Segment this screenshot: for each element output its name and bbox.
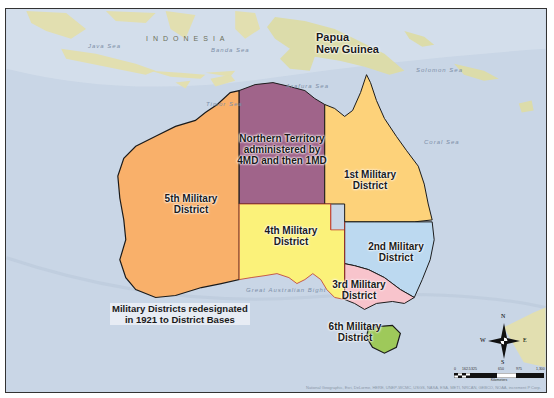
district-1-line2: District	[332, 180, 408, 191]
district-3-line2: District	[324, 290, 394, 301]
indonesia-label: INDONESIA	[146, 35, 230, 42]
district-label-4: 4th Military District	[256, 225, 326, 247]
sea-label-arafura: Arafura Sea	[286, 83, 329, 89]
district-5-line1: 5th Military	[156, 193, 226, 204]
district-label-3: 3rd Military District	[324, 279, 394, 301]
sea-label-timor: Timor Sea	[206, 101, 243, 107]
note-line2: in 1921 to District Bases	[112, 314, 248, 325]
scale-bar: 0 162.5 325 650 975 1,300 Kilometers	[454, 367, 544, 382]
nt-line1: Northern Territory	[234, 133, 330, 144]
sea-label-banda: Banda Sea	[211, 47, 250, 53]
sea-label-solomon: Solomon Sea	[416, 67, 463, 73]
scale-tick-5: 1,300	[536, 367, 545, 371]
sea-label-java: Java Sea	[88, 43, 121, 49]
district-2-line1: 2nd Military	[358, 241, 434, 252]
papua-text: Papua	[316, 31, 379, 43]
district-label-nt: Northern Territory administered by 4MD a…	[234, 133, 330, 166]
district-label-5: 5th Military District	[156, 193, 226, 215]
district-1-line1: 1st Military	[332, 169, 408, 180]
sea-label-bight: Great Australian Bight	[246, 287, 326, 293]
compass-rose-icon: N S W E	[484, 319, 524, 363]
scale-tick-1: 162.5	[462, 367, 471, 371]
district-label-1: 1st Military District	[332, 169, 408, 191]
redesignation-note: Military Districts redesignated in 1921 …	[110, 303, 250, 325]
compass-e: E	[523, 337, 527, 343]
scale-tick-3: 650	[498, 367, 504, 371]
scale-unit: Kilometers	[454, 378, 544, 382]
nt-line3: 4MD and then 1MD	[234, 155, 330, 166]
district-label-6: 6th Military District	[322, 321, 388, 343]
scale-tick-4: 975	[516, 367, 522, 371]
new-guinea-text: New Guinea	[316, 43, 379, 55]
district-6-line2: District	[322, 332, 388, 343]
nt-line2: administered by	[234, 144, 330, 155]
papua-label: Papua New Guinea	[316, 31, 379, 55]
district-3-line1: 3rd Military	[324, 279, 394, 290]
scale-tick-2: 325	[471, 367, 477, 371]
district-4-line2: District	[256, 236, 326, 247]
compass-n: N	[501, 313, 505, 319]
scale-tick-0: 0	[454, 367, 456, 371]
compass-s: S	[501, 359, 504, 365]
compass-w: W	[480, 337, 486, 343]
map-canvas	[6, 9, 546, 392]
district-label-2: 1st Military 2nd Military District	[358, 241, 434, 263]
attribution-text: National Geographic, Esri, DeLorme, HERE…	[306, 385, 541, 390]
note-line1: Military Districts redesignated	[112, 303, 248, 314]
district-5-line2: District	[156, 204, 226, 215]
map-frame: INDONESIA Papua New Guinea Java Sea Band…	[5, 8, 547, 393]
district-6-line1: 6th Military	[322, 321, 388, 332]
district-4-line1: 4th Military	[256, 225, 326, 236]
sea-label-coral: Coral Sea	[424, 139, 460, 145]
district-2-line2: District	[358, 252, 434, 263]
